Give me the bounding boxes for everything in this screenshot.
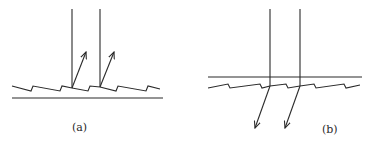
panel-label-b: (b) xyxy=(322,123,338,136)
panel-b xyxy=(208,9,362,128)
panel-a xyxy=(12,9,163,98)
reflected-ray-arrow-a-2 xyxy=(100,52,114,87)
transmitted-ray-arrow-b-1 xyxy=(255,86,270,128)
panel-label-a: (a) xyxy=(72,121,87,134)
reflected-ray-arrow-a-1 xyxy=(72,52,86,88)
diagram-canvas xyxy=(0,0,368,145)
grating-surface-b xyxy=(208,84,360,88)
grating-surface-a xyxy=(12,86,160,91)
transmitted-ray-arrow-b-2 xyxy=(285,86,300,128)
